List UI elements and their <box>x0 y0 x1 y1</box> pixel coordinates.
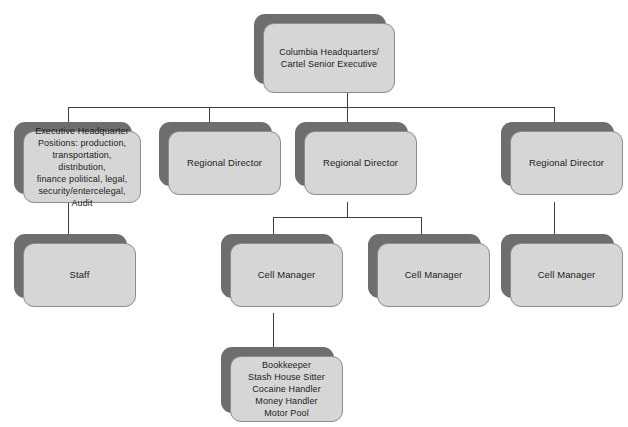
connector-drop-cell-manager-1 <box>273 217 274 234</box>
node-face: Regional Director <box>168 131 281 195</box>
node-label: Cell Manager <box>532 267 602 284</box>
connector-drop-regional-director-3 <box>554 107 555 122</box>
node-face: Regional Director <box>304 131 417 195</box>
node-regional-director-3[interactable]: Regional Director <box>501 122 614 186</box>
connector-drop-executive-headquarter <box>68 107 69 122</box>
node-face: Staff <box>23 243 136 307</box>
node-cell-manager-3[interactable]: Cell Manager <box>501 234 614 298</box>
node-label: Regional Director <box>317 155 404 172</box>
connector-drop-regional-director-2 <box>347 107 348 122</box>
node-face: Cell Manager <box>377 243 490 307</box>
connector-regional-director-3-to-cell-manager-3 <box>554 202 555 234</box>
node-staff[interactable]: Staff <box>14 234 127 298</box>
node-executive-headquarter-positions[interactable]: Executive Headquarter Positions: product… <box>14 122 132 194</box>
node-face: Cell Manager <box>230 243 343 307</box>
node-regional-director-2[interactable]: Regional Director <box>295 122 408 186</box>
node-cell-roles[interactable]: Bookkeeper Stash House Sitter Cocaine Ha… <box>221 347 334 413</box>
node-label: Staff <box>64 267 96 284</box>
connector-cell-manager-1-to-cell-roles <box>273 313 274 347</box>
connector-drop-cell-manager-2 <box>421 217 422 234</box>
node-label: Regional Director <box>181 155 268 172</box>
node-label: Regional Director <box>523 155 610 172</box>
node-columbia-headquarters[interactable]: Columbia Headquarters/ Cartel Senior Exe… <box>254 14 386 84</box>
node-cell-manager-1[interactable]: Cell Manager <box>221 234 334 298</box>
connector-top-bus <box>68 107 555 108</box>
org-chart-canvas: Columbia Headquarters/ Cartel Senior Exe… <box>0 0 628 427</box>
connector-root-stem <box>347 92 348 108</box>
node-label: Bookkeeper Stash House Sitter Cocaine Ha… <box>242 357 331 421</box>
node-label: Cell Manager <box>252 267 322 284</box>
node-face: Bookkeeper Stash House Sitter Cocaine Ha… <box>230 356 343 422</box>
node-face: Regional Director <box>510 131 623 195</box>
node-face: Executive Headquarter Positions: product… <box>23 131 141 203</box>
node-face: Cell Manager <box>510 243 623 307</box>
connector-regional-director-2-stem <box>347 202 348 218</box>
connector-cell-manager-bus <box>273 217 421 218</box>
node-label: Executive Headquarter Positions: product… <box>24 123 140 211</box>
node-label: Cell Manager <box>399 267 469 284</box>
connector-drop-regional-director-1 <box>209 107 210 122</box>
node-regional-director-1[interactable]: Regional Director <box>159 122 272 186</box>
node-face: Columbia Headquarters/ Cartel Senior Exe… <box>263 23 395 93</box>
node-cell-manager-2[interactable]: Cell Manager <box>368 234 481 298</box>
node-label: Columbia Headquarters/ Cartel Senior Exe… <box>273 44 385 72</box>
